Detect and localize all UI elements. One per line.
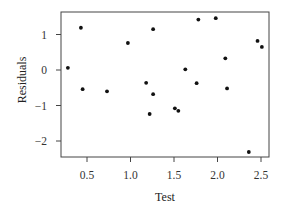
data-points: [66, 16, 264, 154]
data-point: [176, 109, 180, 113]
y-tick-label: −1: [35, 100, 47, 112]
data-point: [151, 27, 155, 31]
data-point: [148, 112, 152, 116]
data-point: [151, 92, 155, 96]
x-tick-label: 2.5: [254, 169, 269, 181]
x-axis: 0.51.01.52.02.5: [80, 157, 269, 181]
y-tick-label: −2: [35, 135, 47, 147]
data-point: [79, 26, 83, 30]
data-point: [126, 41, 130, 45]
data-point: [256, 39, 260, 43]
x-tick-label: 2.0: [210, 169, 225, 181]
y-axis-label: Residuals: [15, 56, 29, 103]
data-point: [66, 66, 70, 70]
data-point: [225, 87, 229, 91]
data-point: [81, 87, 85, 91]
data-point: [214, 16, 218, 20]
data-point: [195, 81, 199, 85]
data-point: [183, 67, 187, 71]
data-point: [247, 150, 251, 154]
y-tick-label: 0: [41, 64, 47, 76]
data-point: [260, 45, 264, 49]
data-point: [105, 89, 109, 93]
x-axis-label: Test: [155, 190, 175, 204]
x-tick-label: 1.5: [167, 169, 182, 181]
data-point: [223, 56, 227, 60]
data-point: [173, 106, 177, 110]
y-axis: −2−101: [35, 29, 61, 148]
plot-frame: [61, 12, 269, 157]
x-tick-label: 1.0: [123, 169, 138, 181]
y-tick-label: 1: [41, 29, 47, 41]
data-point: [144, 81, 148, 85]
x-tick-label: 0.5: [80, 169, 95, 181]
data-point: [196, 18, 200, 22]
scatter-chart: −2−101 0.51.01.52.02.5 Residuals Test: [0, 0, 286, 212]
